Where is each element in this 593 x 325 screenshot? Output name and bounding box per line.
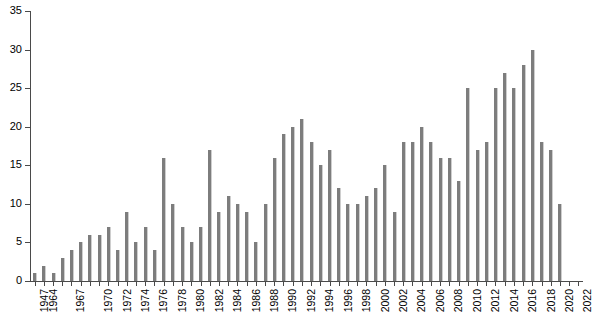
x-axis-tick [495,282,496,286]
bar [402,142,405,281]
bar [374,188,377,281]
y-axis-label: 15 [0,159,22,170]
x-axis-tick [99,282,100,286]
x-axis-label: 1990 [287,289,298,312]
x-axis-tick [403,282,404,286]
bar [208,150,211,281]
y-axis-tick [25,165,30,166]
y-axis-tick [25,88,30,89]
x-axis-label: 2022 [582,289,593,312]
x-axis-tick [283,282,284,286]
x-axis-tick [173,282,174,286]
x-axis-tick [164,282,165,286]
bar [429,142,432,281]
x-axis-label: 1982 [214,289,225,312]
x-axis-tick [219,282,220,286]
bar [466,88,469,281]
bar [61,258,64,281]
x-axis-tick [247,282,248,286]
bar [328,150,331,281]
x-axis-tick [90,282,91,286]
x-axis-tick [237,282,238,286]
x-axis-tick [523,282,524,286]
bar [420,127,423,281]
x-axis-label: 2012 [490,289,501,312]
bar [439,158,442,281]
bar [558,204,561,281]
bar [512,88,515,281]
x-axis-label: 1967 [75,289,86,312]
x-axis-tick [422,282,423,286]
bar [291,127,294,281]
y-axis-label: 25 [0,82,22,93]
bar [549,150,552,281]
bar [310,142,313,281]
y-axis-label: 20 [0,121,22,132]
x-axis-label: 1992 [306,289,317,312]
y-axis-label: 30 [0,44,22,55]
x-axis-tick [440,282,441,286]
bar [162,158,165,281]
x-axis-tick [136,282,137,286]
x-axis-tick [385,282,386,286]
x-axis-label: 1980 [195,289,206,312]
x-axis-label: 1976 [158,289,169,312]
x-axis-tick [210,282,211,286]
bar [411,142,414,281]
x-axis-tick [532,282,533,286]
x-axis-label: 2010 [472,289,483,312]
x-axis-tick [145,282,146,286]
bar [540,142,543,281]
x-axis-tick [330,282,331,286]
x-axis-tick [154,282,155,286]
x-axis-tick [127,282,128,286]
x-axis-label: 2016 [527,289,538,312]
bar [181,227,184,281]
bar [522,65,525,281]
y-axis-tick [25,204,30,205]
y-axis-label: 5 [0,236,22,247]
x-axis-line [30,281,583,282]
x-axis-tick [514,282,515,286]
x-axis-tick [182,282,183,286]
x-axis-label: 1988 [269,289,280,312]
x-axis-label: 2000 [380,289,391,312]
x-axis-label: 2018 [546,289,557,312]
bar [264,204,267,281]
x-axis-label: 1996 [343,289,354,312]
bar [33,273,36,281]
x-axis-label: 2014 [509,289,520,312]
y-axis-tick [25,127,30,128]
bar [337,188,340,281]
x-axis-label: 2002 [398,289,409,312]
bar [383,165,386,281]
x-axis-tick [265,282,266,286]
bar [531,50,534,281]
x-axis-tick [376,282,377,286]
bar [42,266,45,281]
bar [503,73,506,281]
x-axis-label: 1964 [48,289,59,312]
y-axis-line [30,11,31,282]
x-axis-tick [468,282,469,286]
x-axis-tick [578,282,579,286]
bar [116,250,119,281]
bar [217,212,220,281]
x-axis-label: 2004 [416,289,427,312]
x-axis-label: 1978 [177,289,188,312]
x-axis-tick [302,282,303,286]
bar [125,212,128,281]
x-axis-label: 1994 [324,289,335,312]
bar [227,196,230,281]
x-axis-tick [62,282,63,286]
x-axis-label: 1986 [251,289,262,312]
bar [88,235,91,281]
x-axis-tick [108,282,109,286]
x-axis-tick [560,282,561,286]
x-axis-tick [505,282,506,286]
x-axis-tick [477,282,478,286]
x-axis-tick [551,282,552,286]
x-axis-tick [81,282,82,286]
x-axis-tick [486,282,487,286]
